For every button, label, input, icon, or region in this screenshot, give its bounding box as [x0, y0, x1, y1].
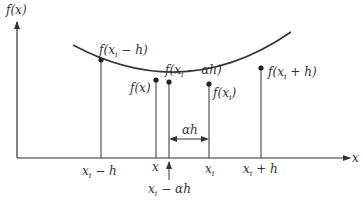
tick-xi-minus-alpha-h: xi − αh: [148, 182, 191, 198]
y-axis-label: f(x): [5, 3, 27, 17]
label-f-xi-minus-alpha-h: f(xi − αh): [164, 63, 222, 79]
tick-xi-minus-h: xi − h: [82, 164, 117, 180]
point-f-xi-minus-alpha-h: [166, 79, 171, 84]
point-f-xi-minus-h: [98, 57, 103, 62]
tick-x: x: [152, 160, 159, 174]
label-f-x: f(x): [129, 81, 151, 95]
interval-label-alpha-h: αh: [182, 123, 198, 137]
label-f-xi-minus-h: f(xi − h): [98, 43, 148, 59]
label-f-xi-plus-h: f(xi + h): [267, 65, 317, 81]
tick-xi-plus-h: xi + h: [243, 162, 278, 178]
point-f-xi: [206, 81, 211, 86]
point-f-xi-plus-h: [258, 65, 263, 70]
point-f-x: [153, 77, 158, 82]
tick-xi: xi: [205, 162, 215, 178]
interpolation-diagram: f(x) x f(xi − h) f(x) f(xi − αh) f(xi) f…: [0, 0, 363, 200]
label-f-xi: f(xi): [212, 86, 236, 102]
x-axis-label: x: [352, 151, 359, 165]
